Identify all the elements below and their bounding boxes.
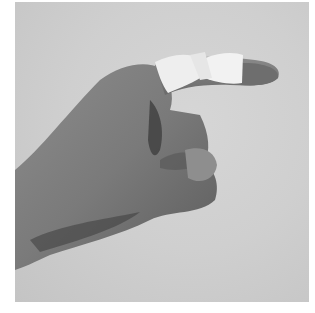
hand-photo <box>15 2 309 302</box>
hand-illustration <box>15 2 309 302</box>
tape-distal <box>205 53 243 84</box>
bottom-border <box>15 304 309 312</box>
